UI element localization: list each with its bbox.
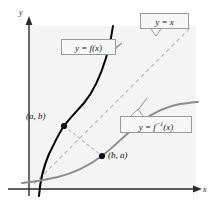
inverse-function-label-box: y = f−1(x) — [120, 116, 192, 133]
inverse-function-figure: y x y = f(x) y = x y = f−1(x) (a, b) (b,… — [0, 0, 214, 214]
point-marker-a-b — [61, 123, 67, 129]
inverse-label-prefix: y = f — [139, 122, 156, 132]
inverse-label-suffix: (x) — [163, 122, 173, 132]
x-axis-label: x — [203, 186, 207, 194]
point-marker-b-a — [99, 153, 105, 159]
figure-canvas — [0, 0, 214, 214]
function-label-box: y = f(x) — [61, 39, 116, 55]
identity-label-box: y = x — [140, 13, 189, 29]
point-label-b-a: (b, a) — [108, 151, 128, 160]
point-label-a-b: (a, b) — [26, 112, 46, 121]
y-axis-label: y — [19, 9, 23, 17]
